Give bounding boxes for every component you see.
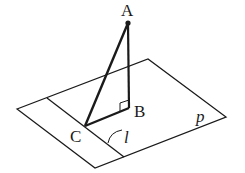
line-l-marker — [108, 130, 122, 143]
geometry-diagram: A B C l p — [0, 0, 245, 173]
label-B: B — [134, 102, 145, 121]
label-l: l — [124, 128, 129, 147]
line-l — [47, 98, 124, 157]
segment-AB — [128, 23, 129, 108]
plane-p — [17, 59, 226, 168]
label-p: p — [195, 107, 205, 126]
label-A: A — [121, 1, 134, 20]
point-A-dot — [125, 20, 130, 25]
label-C: C — [70, 127, 81, 146]
